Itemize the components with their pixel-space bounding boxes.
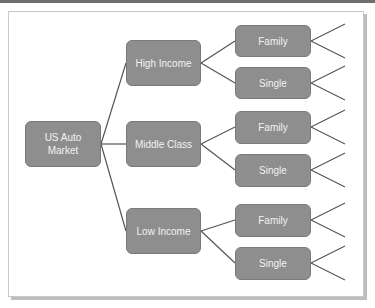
- leaf-label: Single: [259, 257, 287, 270]
- segment-label: Low Income: [137, 225, 191, 238]
- leaf-label: Family: [258, 214, 287, 227]
- leaf-node-high-family: Family: [235, 25, 311, 57]
- leaf-node-low-single: Single: [235, 247, 311, 280]
- leaf-node-high-single: Single: [235, 67, 311, 99]
- segment-label: Middle Class: [135, 138, 192, 151]
- leaf-label: Single: [259, 164, 287, 177]
- segment-label: High Income: [135, 57, 191, 70]
- root-node-label: US Auto Market: [38, 131, 88, 157]
- leaf-node-low-family: Family: [235, 204, 311, 237]
- segment-node-low-income: Low Income: [126, 208, 201, 254]
- leaf-node-middle-family: Family: [235, 111, 311, 144]
- segment-node-high-income: High Income: [126, 40, 201, 86]
- leaf-label: Single: [259, 77, 287, 90]
- leaf-label: Family: [258, 35, 287, 48]
- root-node: US Auto Market: [25, 121, 101, 167]
- segment-node-middle-class: Middle Class: [126, 121, 201, 167]
- leaf-label: Family: [258, 121, 287, 134]
- leaf-node-middle-single: Single: [235, 154, 311, 187]
